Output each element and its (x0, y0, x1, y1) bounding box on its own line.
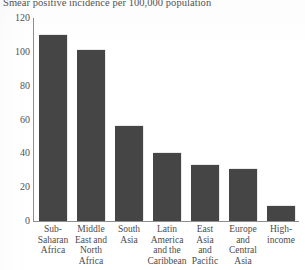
y-tick-label: 80 (2, 81, 30, 91)
bar-series (34, 18, 300, 221)
bar (267, 206, 294, 221)
bar (39, 35, 66, 221)
chart-figure: Smear positive incidence per 100,000 pop… (0, 0, 305, 270)
category-label-line: Asia (221, 256, 265, 267)
bar-slot (191, 18, 218, 221)
category-label-line: North (69, 245, 113, 256)
x-axis-line (33, 221, 299, 222)
x-axis-category-labels: Sub-SaharanAfricaMiddleEast andNorthAfri… (34, 224, 300, 270)
category-label: High-income (259, 224, 303, 245)
bar-slot (153, 18, 180, 221)
category-label-line: income (259, 235, 303, 246)
y-tick-label: 40 (2, 148, 30, 158)
category-label-line: High- (259, 224, 303, 235)
y-tick-label: 20 (2, 182, 30, 192)
bar-slot (77, 18, 104, 221)
bar (191, 165, 218, 221)
bar (77, 50, 104, 221)
bar (229, 169, 256, 221)
bar-slot (39, 18, 66, 221)
bar (115, 126, 142, 221)
category-label-line: Central (221, 245, 265, 256)
bar-slot (267, 18, 294, 221)
y-tick-label: 60 (2, 115, 30, 125)
y-tick-label: 100 (2, 47, 30, 57)
bar (153, 153, 180, 221)
category-label-line: Africa (69, 256, 113, 267)
bar-slot (229, 18, 256, 221)
y-tick-label: 120 (2, 13, 30, 23)
y-axis-tick-labels: 020406080100120 (0, 0, 30, 270)
bar-slot (115, 18, 142, 221)
y-tick-label: 0 (2, 216, 30, 226)
chart-title: Smear positive incidence per 100,000 pop… (3, 0, 303, 9)
